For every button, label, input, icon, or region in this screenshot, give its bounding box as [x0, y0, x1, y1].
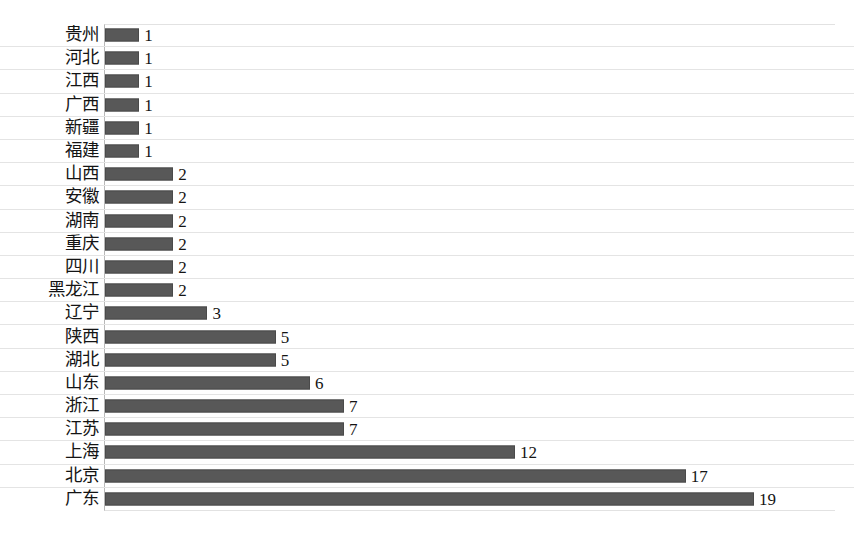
bar [105, 423, 344, 436]
bar [105, 493, 754, 506]
bar-value-label: 7 [349, 398, 358, 415]
bar [105, 237, 173, 250]
bar-with-value: 12 [105, 446, 537, 459]
category-label: 广西 [0, 96, 99, 114]
bar-row: 重庆2 [0, 233, 854, 256]
bar [105, 330, 276, 343]
bar-with-value: 5 [105, 330, 289, 343]
bar-row: 北京17 [0, 465, 854, 488]
bar-with-value: 2 [105, 168, 187, 181]
bar-row: 黑龙江2 [0, 279, 854, 302]
bar-row: 贵州1 [0, 24, 854, 47]
bar-row: 广东19 [0, 488, 854, 511]
bar-value-label: 2 [178, 212, 187, 229]
category-label: 上海 [0, 444, 99, 462]
bar-with-value: 19 [105, 493, 776, 506]
bar-with-value: 1 [105, 121, 153, 134]
bar-with-value: 1 [105, 29, 153, 42]
bar-value-label: 3 [212, 305, 221, 322]
bar-value-label: 19 [759, 491, 776, 508]
bar-value-label: 2 [178, 235, 187, 252]
bar-row: 新疆1 [0, 117, 854, 140]
bar [105, 400, 344, 413]
category-label: 福建 [0, 142, 99, 160]
bar-value-label: 1 [144, 73, 153, 90]
bar-with-value: 17 [105, 469, 708, 482]
bar-value-label: 1 [144, 27, 153, 44]
bar [105, 121, 139, 134]
bar-row: 山西2 [0, 163, 854, 186]
bar [105, 29, 139, 42]
bar [105, 260, 173, 273]
category-label: 四川 [0, 258, 99, 276]
bar-row: 广西1 [0, 94, 854, 117]
bar-row: 山东6 [0, 372, 854, 395]
bar-value-label: 2 [178, 166, 187, 183]
bar-row-list: 贵州1河北1江西1广西1新疆1福建1山西2安徽2湖南2重庆2四川2黑龙江2辽宁3… [0, 24, 854, 511]
category-label: 湖北 [0, 351, 99, 369]
bar-with-value: 6 [105, 376, 323, 389]
bar-value-label: 2 [178, 189, 187, 206]
bar [105, 168, 173, 181]
bar [105, 284, 173, 297]
bar-row: 辽宁3 [0, 302, 854, 325]
bar-row: 江苏7 [0, 418, 854, 441]
bar-value-label: 17 [691, 467, 708, 484]
bar-with-value: 5 [105, 353, 289, 366]
bar-with-value: 3 [105, 307, 221, 320]
bar-with-value: 2 [105, 260, 187, 273]
bar-with-value: 7 [105, 423, 358, 436]
bar-value-label: 1 [144, 50, 153, 67]
bar-value-label: 12 [520, 444, 537, 461]
bar [105, 52, 139, 65]
bar-row: 上海12 [0, 441, 854, 464]
category-label: 江西 [0, 73, 99, 91]
category-label: 浙江 [0, 397, 99, 415]
bar-with-value: 1 [105, 52, 153, 65]
bar-chart: 贵州1河北1江西1广西1新疆1福建1山西2安徽2湖南2重庆2四川2黑龙江2辽宁3… [0, 0, 854, 535]
bar-value-label: 7 [349, 421, 358, 438]
category-label: 江苏 [0, 421, 99, 439]
bar-with-value: 2 [105, 284, 187, 297]
bar [105, 214, 173, 227]
bar [105, 307, 207, 320]
bar-with-value: 2 [105, 237, 187, 250]
bar-row: 江西1 [0, 70, 854, 93]
bar-row: 陕西5 [0, 325, 854, 348]
category-label: 河北 [0, 50, 99, 68]
bar-row: 湖南2 [0, 210, 854, 233]
bar-with-value: 2 [105, 191, 187, 204]
category-label: 重庆 [0, 235, 99, 253]
bar-row: 安徽2 [0, 186, 854, 209]
category-label: 湖南 [0, 212, 99, 230]
category-label: 新疆 [0, 119, 99, 137]
bar-with-value: 7 [105, 400, 358, 413]
bar [105, 469, 686, 482]
bar [105, 75, 139, 88]
bar-value-label: 1 [144, 119, 153, 136]
category-label: 北京 [0, 467, 99, 485]
category-label: 陕西 [0, 328, 99, 346]
bar-with-value: 2 [105, 214, 187, 227]
bar [105, 191, 173, 204]
bar-with-value: 1 [105, 75, 153, 88]
bar-value-label: 5 [281, 351, 290, 368]
bar-row: 河北1 [0, 47, 854, 70]
bar-with-value: 1 [105, 145, 153, 158]
category-label: 山东 [0, 374, 99, 392]
category-label: 山西 [0, 165, 99, 183]
category-label: 安徽 [0, 189, 99, 207]
bar-value-label: 2 [178, 282, 187, 299]
bar [105, 145, 139, 158]
bar-value-label: 1 [144, 96, 153, 113]
bar-value-label: 1 [144, 143, 153, 160]
bar [105, 98, 139, 111]
bar-row: 浙江7 [0, 395, 854, 418]
bar-row: 四川2 [0, 256, 854, 279]
bar-row: 湖北5 [0, 349, 854, 372]
bar-row: 福建1 [0, 140, 854, 163]
category-label: 贵州 [0, 26, 99, 44]
bar-value-label: 2 [178, 258, 187, 275]
category-label: 黑龙江 [0, 281, 99, 299]
category-label: 辽宁 [0, 305, 99, 323]
